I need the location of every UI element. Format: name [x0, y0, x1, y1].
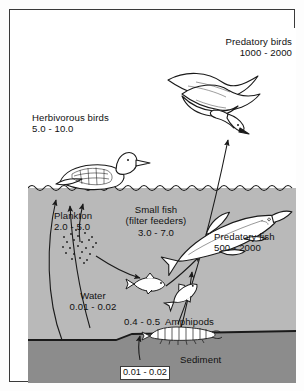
predatory-fish-value: 500 - 2000	[214, 242, 261, 253]
loon-beak	[136, 160, 150, 166]
loon-eye	[127, 159, 129, 161]
diagram-frame: Predatory birds1000 - 2000 Herbivorous b…	[9, 9, 295, 382]
small-fish-qualifier: (filter feeders)	[126, 215, 187, 226]
pike-snout	[271, 208, 293, 223]
label-predatory-fish: Predatory fish500 - 2000	[214, 231, 275, 254]
herbivorous-birds-value: 5.0 - 10.0	[32, 123, 74, 134]
predatory-birds-value: 1000 - 2000	[240, 47, 292, 58]
amphipod-telson	[142, 332, 150, 340]
predatory-birds-name: Predatory birds	[225, 36, 292, 47]
small-fish-1-tail	[126, 279, 134, 289]
loon-head	[116, 152, 137, 174]
amphipod-antenna-2	[212, 337, 222, 339]
amphipod-body	[150, 327, 215, 340]
gull-eye	[237, 124, 239, 126]
water-name: Water	[80, 290, 106, 301]
plankton-value: 2.0 - 5.0	[54, 221, 90, 232]
label-predatory-birds: Predatory birds1000 - 2000	[225, 36, 292, 59]
small-fish-2-body	[170, 280, 201, 308]
small-fish-1-body	[134, 278, 165, 292]
gull-figure	[168, 73, 260, 134]
plankton-name: Plankton	[54, 210, 92, 221]
small-fish-1-figure	[126, 273, 165, 294]
label-water: Water0.01 - 0.02	[56, 290, 130, 313]
label-small-fish: Small fish(filter feeders)3.0 - 7.0	[114, 204, 198, 238]
sediment-value-box: 0.01 - 0.02	[120, 366, 170, 380]
predatory-fish-name: Predatory fish	[214, 231, 275, 242]
label-plankton: Plankton2.0 - 5.0	[54, 210, 92, 233]
food-web-scene: Predatory birds1000 - 2000 Herbivorous b…	[28, 28, 296, 383]
label-amphipods: 0.4 - 0.5 Amphipods	[124, 316, 214, 327]
water-value: 0.01 - 0.02	[70, 301, 117, 312]
small-fish-2-figure	[161, 275, 203, 314]
loon-figure	[56, 152, 150, 189]
small-fish-1-dorsal-fin	[146, 273, 154, 278]
pike-tail	[161, 252, 181, 276]
diagram-stage: Predatory birds1000 - 2000 Herbivorous b…	[0, 0, 304, 391]
small-fish-name: Small fish	[135, 204, 178, 215]
small-fish-1-anal-fin	[146, 290, 152, 294]
small-fish-value: 3.0 - 7.0	[138, 227, 174, 238]
plankton-cloud-figure	[62, 229, 97, 264]
label-sediment: Sediment	[180, 354, 221, 365]
small-fish-1-eye	[160, 282, 162, 284]
herbivorous-birds-name: Herbivorous birds	[32, 112, 109, 123]
amphipod-figure	[142, 327, 222, 345]
label-herbivorous-birds: Herbivorous birds5.0 - 10.0	[32, 112, 109, 135]
